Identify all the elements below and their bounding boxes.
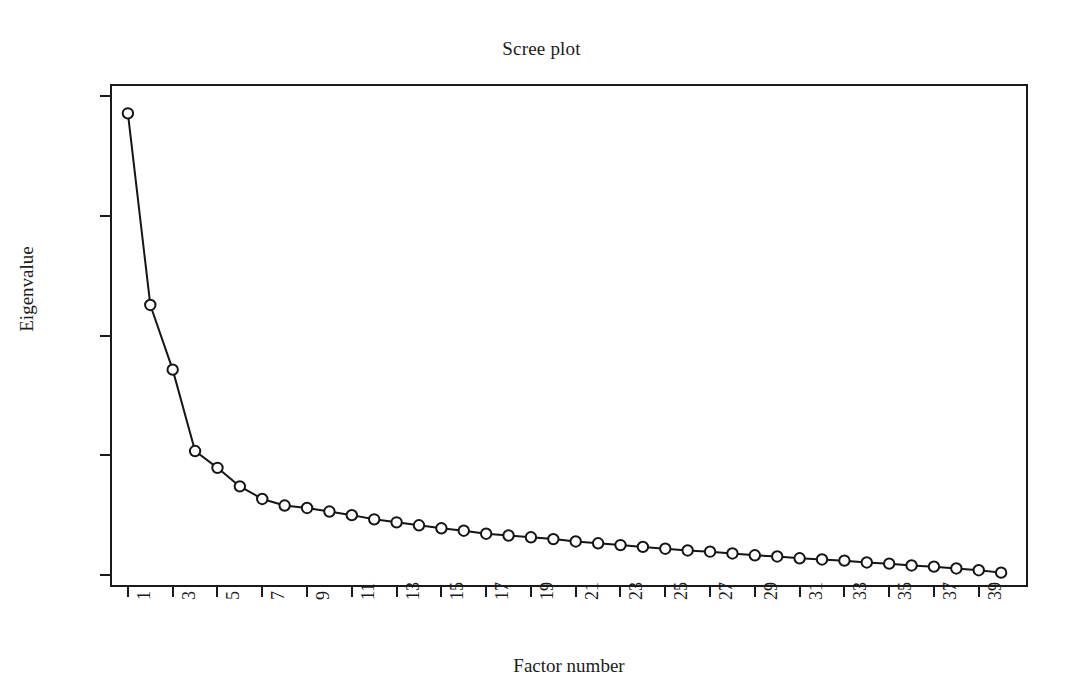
x-tick-mark <box>799 587 801 597</box>
x-tick-label: 7 <box>269 591 287 600</box>
data-point-marker <box>682 545 692 555</box>
data-point-marker <box>615 540 625 550</box>
x-tick-mark <box>440 587 442 597</box>
x-tick-mark <box>261 587 263 597</box>
scree-plot-figure: Scree plot Eigenvalue 024681357911131517… <box>0 0 1083 698</box>
x-tick-label: 1 <box>135 591 153 600</box>
data-point-marker <box>459 526 469 536</box>
data-point-marker <box>391 517 401 527</box>
data-point-marker <box>638 542 648 552</box>
x-tick-mark <box>351 587 353 597</box>
data-point-marker <box>302 503 312 513</box>
data-point-marker <box>347 510 357 520</box>
y-tick-mark <box>100 95 110 97</box>
eigenvalue-series-markers <box>123 108 1007 578</box>
data-point-marker <box>884 558 894 568</box>
data-point-marker <box>839 555 849 565</box>
x-tick-mark <box>575 587 577 597</box>
data-point-marker <box>481 529 491 539</box>
data-point-marker <box>974 565 984 575</box>
x-tick-mark <box>843 587 845 597</box>
data-point-marker <box>772 551 782 561</box>
data-point-marker <box>123 108 133 118</box>
chart-title: Scree plot <box>0 38 1083 60</box>
data-point-marker <box>436 523 446 533</box>
x-tick-mark <box>709 587 711 597</box>
data-point-marker <box>324 506 334 516</box>
data-point-marker <box>571 536 581 546</box>
data-point-marker <box>257 494 267 504</box>
data-point-marker <box>167 364 177 374</box>
data-point-marker <box>145 300 155 310</box>
data-point-marker <box>593 538 603 548</box>
y-tick-mark <box>100 335 110 337</box>
x-tick-label: 5 <box>224 591 242 600</box>
data-point-marker <box>548 534 558 544</box>
data-point-marker <box>414 520 424 530</box>
y-axis-title: Eigenvalue <box>16 139 38 439</box>
x-tick-mark <box>664 587 666 597</box>
data-point-marker <box>794 553 804 563</box>
x-tick-mark <box>619 587 621 597</box>
data-point-marker <box>235 481 245 491</box>
x-tick-mark <box>485 587 487 597</box>
data-point-marker <box>817 554 827 564</box>
data-point-marker <box>526 532 536 542</box>
data-point-marker <box>929 561 939 571</box>
data-point-marker <box>190 446 200 456</box>
x-axis-title: Factor number <box>110 655 1028 677</box>
data-point-marker <box>705 546 715 556</box>
x-tick-mark <box>754 587 756 597</box>
data-point-marker <box>660 543 670 553</box>
y-tick-mark <box>100 454 110 456</box>
data-point-marker <box>750 550 760 560</box>
x-tick-mark <box>216 587 218 597</box>
x-tick-mark <box>306 587 308 597</box>
x-tick-mark <box>933 587 935 597</box>
data-point-marker <box>951 563 961 573</box>
data-point-marker <box>369 514 379 524</box>
x-tick-mark <box>396 587 398 597</box>
x-tick-mark <box>888 587 890 597</box>
x-tick-label: 9 <box>314 591 332 600</box>
data-point-marker <box>996 567 1006 577</box>
y-tick-mark <box>100 574 110 576</box>
data-point-marker <box>862 557 872 567</box>
x-tick-label: 3 <box>180 591 198 600</box>
data-point-marker <box>906 560 916 570</box>
x-tick-mark <box>978 587 980 597</box>
plot-canvas <box>110 84 1028 587</box>
x-tick-mark <box>530 587 532 597</box>
data-point-marker <box>212 463 222 473</box>
y-tick-mark <box>100 215 110 217</box>
data-point-marker <box>503 530 513 540</box>
data-point-marker <box>279 500 289 510</box>
x-tick-mark <box>172 587 174 597</box>
x-tick-mark <box>127 587 129 597</box>
data-point-marker <box>727 548 737 558</box>
